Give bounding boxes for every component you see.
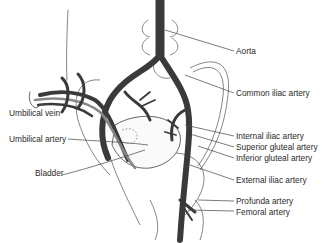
label-superior-gluteal-artery: Superior gluteal artery	[236, 142, 318, 152]
label-inferior-gluteal-artery: Inferior gluteal artery	[236, 153, 312, 163]
label-external-iliac-artery: External iliac artery	[236, 175, 307, 185]
label-aorta: Aorta	[236, 46, 256, 56]
label-common-iliac-artery: Common iliac artery	[236, 88, 310, 98]
label-femoral-artery: Femoral artery	[236, 207, 290, 217]
label-profunda-artery: Profunda artery	[236, 196, 293, 206]
label-umbilical-artery: Umbilical artery	[9, 134, 66, 144]
label-internal-iliac-artery: Internal iliac artery	[236, 131, 304, 141]
arteries	[102, 0, 195, 240]
label-bladder: Bladder	[35, 168, 64, 178]
label-umbilical-vein: Umbilical vein	[9, 108, 60, 118]
anatomy-diagram: Umbilical vein Umbilical artery Bladder …	[0, 0, 326, 243]
